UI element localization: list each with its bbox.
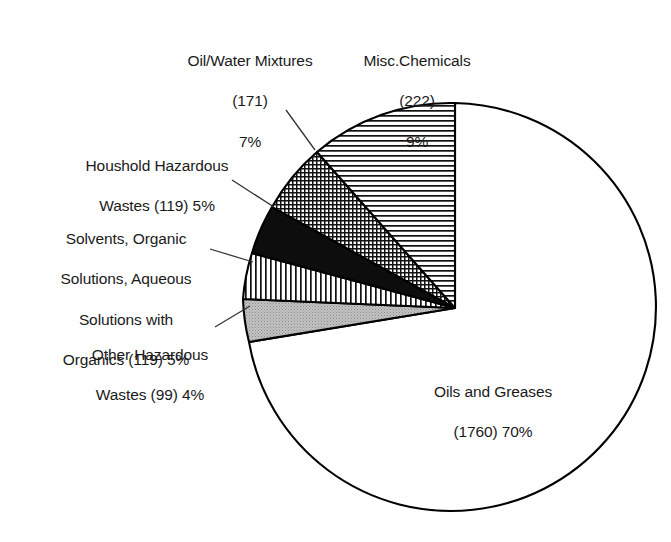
label-other-hazardous-wastes-line1: Other Hazardous [40, 345, 260, 365]
label-other-hazardous-wastes: Other Hazardous Wastes (99) 4% [40, 325, 260, 426]
label-misc-chemicals-line2: (222) [337, 91, 497, 111]
label-oil-water-mixtures-line2: (171) [150, 91, 350, 111]
label-misc-chemicals: Misc.Chemicals (222) 9% [337, 31, 497, 172]
label-misc-chemicals-line3: 9% [337, 132, 497, 152]
label-misc-chemicals-line1: Misc.Chemicals [337, 51, 497, 71]
label-houshold-hazardous-wastes-line1: Houshold Hazardous [48, 156, 266, 176]
label-oils-and-greases: Oils and Greases (1760) 70% [398, 362, 588, 463]
label-oils-and-greases-line2: (1760) 70% [398, 422, 588, 442]
label-solvents-line2: Solutions, Aqueous [17, 269, 235, 289]
label-solvents-line1: Solvents, Organic [17, 229, 235, 249]
label-oils-and-greases-line1: Oils and Greases [398, 382, 588, 402]
label-other-hazardous-wastes-line2: Wastes (99) 4% [40, 385, 260, 405]
label-oil-water-mixtures-line1: Oil/Water Mixtures [150, 51, 350, 71]
pie-chart-page: Oil/Water Mixtures (171) 7% Misc.Chemica… [0, 0, 671, 542]
